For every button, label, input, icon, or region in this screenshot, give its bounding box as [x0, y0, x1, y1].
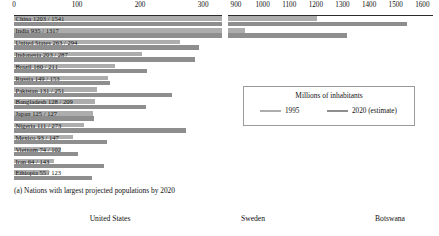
chart-row-high-india [228, 28, 433, 40]
chart-row-high-china [228, 16, 433, 28]
axis-tick-1400: 1400 [362, 1, 376, 9]
axis-tick-100: 100 [72, 1, 83, 9]
chart-row-russia: Russia 149 / 153 [14, 75, 222, 87]
row-label: Vietnam 74 / 102 [16, 146, 62, 153]
axis-tick-1600: 1600 [415, 1, 429, 9]
chart-legend: Millions of inhabitants 1995 2020 (estim… [243, 86, 415, 126]
bar-1995-high [228, 16, 317, 20]
next-figure-panel-heading-sweden: Sweden [241, 214, 265, 223]
chart-row-high-united-states [228, 40, 433, 52]
row-label: Bangladesh 128 / 209 [16, 98, 73, 105]
figure-b-partial: United StatesSwedenBotswana [0, 214, 439, 236]
next-figure-panel-heading-united-states: United States [90, 214, 131, 223]
row-label: Pakistan 131 / 251 [16, 87, 65, 94]
chart-row-vietnam: Vietnam 74 / 102 [14, 146, 222, 158]
chart-row-united-states: United States 263 / 294 [14, 40, 222, 52]
row-label: Brazil 160 / 211 [16, 63, 58, 70]
chart-row-indonesia: Indonesia 203 / 287 [14, 52, 222, 64]
bar-2020-high [228, 33, 347, 37]
axis-tick-1300: 1300 [335, 1, 349, 9]
legend-swatch-2020 [327, 110, 348, 113]
row-label: India 935 / 1317 [16, 27, 59, 34]
chart-row-mexico: Mexico 93 / 147 [14, 135, 222, 147]
row-label: Iran 64 / 143 [16, 158, 50, 165]
legend-entry-1995: 1995 [260, 107, 299, 115]
legend-label-2020: 2020 (estimate) [352, 107, 397, 115]
row-label: Russia 149 / 153 [16, 75, 60, 82]
axis-tick-1200: 1200 [309, 1, 323, 9]
axis-tick-900: 900 [231, 1, 242, 9]
row-label: China 1203 / 1541 [16, 15, 65, 22]
axis-tick-300: 300 [198, 1, 209, 9]
figure-a-population-chart: 0100200300900100011001200130014001500160… [0, 0, 439, 200]
row-label: Indonesia 203 / 287 [16, 51, 68, 58]
next-figure-panel-heading-botswana: Botswana [375, 214, 405, 223]
chart-row-ethiopia: Ethiopia 55 / 123 [14, 170, 222, 182]
figure-caption: (a) Nations with largest projected popul… [14, 186, 175, 195]
chart-row-high-ethiopia [228, 170, 433, 182]
row-label: United States 263 / 294 [16, 39, 78, 46]
legend-label-1995: 1995 [285, 107, 299, 115]
chart-row-pakistan: Pakistan 131 / 251 [14, 87, 222, 99]
bar-2020-high [228, 22, 407, 26]
row-label: Nigeria 111 / 273 [16, 122, 62, 129]
chart-row-japan: Japan 125 / 127 [14, 111, 222, 123]
plot-panel-left: China 1203 / 1541India 935 / 1317United … [14, 16, 222, 182]
axis-tick-1500: 1500 [389, 1, 403, 9]
chart-row-india: India 935 / 1317 [14, 28, 222, 40]
legend-title: Millions of inhabitants [244, 91, 414, 100]
chart-row-high-indonesia [228, 52, 433, 64]
chart-row-iran: Iran 64 / 143 [14, 158, 222, 170]
chart-row-bangladesh: Bangladesh 128 / 209 [14, 99, 222, 111]
bar-1995-high [228, 28, 245, 32]
row-label: Japan 125 / 127 [16, 110, 58, 117]
axis-tick-0: 0 [12, 1, 16, 9]
axis-tick-200: 200 [135, 1, 146, 9]
chart-row-brazil: Brazil 160 / 211 [14, 63, 222, 75]
chart-row-high-iran [228, 158, 433, 170]
chart-row-high-brazil [228, 63, 433, 75]
axis-tick-1000: 1000 [255, 1, 269, 9]
chart-row-china: China 1203 / 1541 [14, 16, 222, 28]
row-label: Ethiopia 55 / 123 [16, 169, 62, 176]
chart-axis: 0100200300900100011001200130014001500160… [0, 0, 439, 16]
legend-swatch-1995 [260, 110, 281, 113]
chart-row-high-vietnam [228, 146, 433, 158]
chart-row-high-mexico [228, 135, 433, 147]
legend-entry-2020: 2020 (estimate) [327, 107, 397, 115]
axis-tick-1100: 1100 [282, 1, 296, 9]
chart-row-nigeria: Nigeria 111 / 273 [14, 123, 222, 135]
row-label: Mexico 93 / 147 [16, 134, 59, 141]
